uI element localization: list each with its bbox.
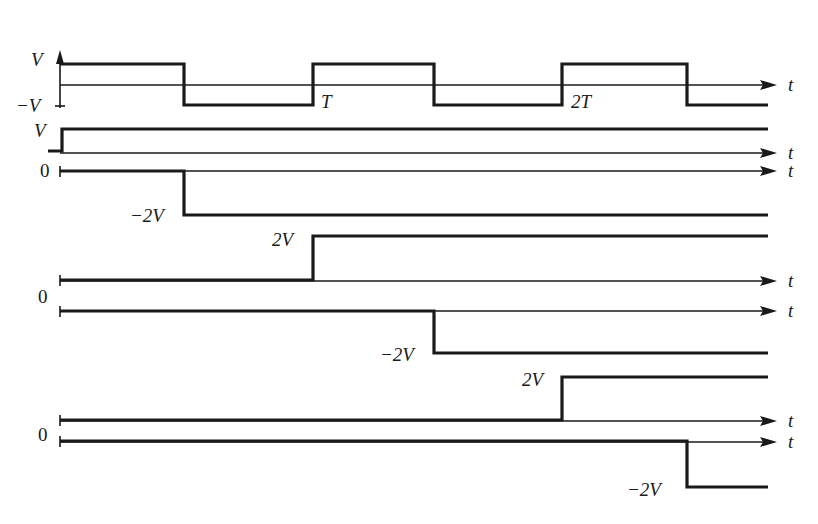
label-t-axis-5: t xyxy=(788,300,794,321)
label-zero-2: 0 xyxy=(38,286,48,307)
step-trace-2 xyxy=(60,236,768,280)
label-minus-2v-3: −2V xyxy=(627,479,663,500)
step-trace-4 xyxy=(60,377,768,420)
label-minus-2v-1: −2V xyxy=(130,205,166,226)
label-t-axis-6: t xyxy=(788,410,794,431)
label-zero-3: 0 xyxy=(38,424,48,445)
label-2v-1: 2V xyxy=(272,229,296,250)
label-zero-1: 0 xyxy=(40,160,50,181)
label-step-v: V xyxy=(34,120,48,141)
step-plot-2: 2V t xyxy=(60,229,794,291)
label-v-high: V xyxy=(31,49,45,70)
label-minus-2v-2: −2V xyxy=(380,344,416,365)
label-t-axis-3: t xyxy=(788,160,794,181)
label-t-axis-7: t xyxy=(788,431,794,452)
square-wave-plot: V −V T 2T t xyxy=(16,49,794,116)
label-v-low: −V xyxy=(16,95,43,116)
step-plot-0: V t xyxy=(34,120,794,163)
step-plot-5: 0 −2V t xyxy=(38,424,794,500)
label-period-2t: 2T xyxy=(571,91,593,112)
voltage-axis-arrow-icon xyxy=(56,50,64,64)
step-trace-3 xyxy=(60,311,768,353)
label-2v-2: 2V xyxy=(522,369,546,390)
square-wave-decomposition-diagram: V −V T 2T t V t 0 −2V t 2V t 0 −2 xyxy=(0,0,818,524)
step-trace-5 xyxy=(60,441,768,487)
step-plot-3: 0 −2V t xyxy=(38,286,794,365)
step-trace-0 xyxy=(48,129,768,151)
label-period-t: T xyxy=(321,91,333,112)
label-t-axis-1: t xyxy=(788,74,794,95)
step-plot-4: 2V t xyxy=(60,369,794,431)
step-plot-1: 0 −2V t xyxy=(40,160,794,226)
step-trace-1 xyxy=(60,171,768,215)
label-t-axis-4: t xyxy=(788,270,794,291)
